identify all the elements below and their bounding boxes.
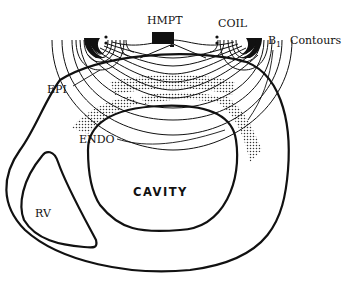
epi-label: EPI: [47, 83, 67, 96]
rv-label: RV: [35, 207, 52, 220]
cardiac-b1-contour-diagram: HMPT COIL B1 Contours EPI ENDO CAVITY RV: [0, 0, 346, 283]
stippled-myocardium-region: [72, 75, 262, 163]
hmpt-label: HMPT: [147, 14, 183, 27]
cavity-label: CAVITY: [133, 185, 188, 199]
endo-label: ENDO: [79, 133, 115, 146]
right-coil-dot-bottom: [215, 41, 218, 44]
coil-label: COIL: [218, 17, 248, 30]
left-coil-dot-bottom: [104, 41, 107, 44]
right-ventricle-outline: [21, 152, 96, 247]
b1-label: B1: [268, 34, 281, 49]
left-coil-dot-top: [104, 35, 107, 38]
endo-leader-line: [117, 130, 225, 144]
contours-label: Contours: [290, 34, 342, 47]
right-coil-dot-top: [215, 35, 218, 38]
endocardium-outline: [88, 106, 237, 231]
hmpt-probe-tip: [170, 45, 174, 47]
hmpt-probe-block: [152, 32, 174, 44]
